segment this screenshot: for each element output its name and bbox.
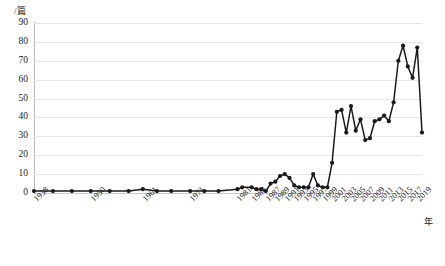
data-point [387, 119, 391, 123]
data-point [108, 189, 112, 193]
data-point [358, 117, 362, 121]
series-path [34, 46, 422, 191]
data-point [382, 113, 386, 117]
data-point [420, 130, 424, 134]
data-point [392, 100, 396, 104]
x-axis-unit-label: 年 [424, 215, 433, 228]
y-tick-40: 40 [6, 112, 28, 122]
data-point [415, 45, 419, 49]
y-tick-70: 70 [6, 56, 28, 66]
y-tick-50: 50 [6, 94, 28, 104]
data-point [330, 161, 334, 165]
data-point [70, 189, 74, 193]
data-point [377, 117, 381, 121]
y-tick-10: 10 [6, 169, 28, 179]
y-axis-unit-label: /篇 [14, 4, 26, 17]
data-point [339, 108, 343, 112]
data-point [396, 59, 400, 63]
data-point [287, 176, 291, 180]
data-point [278, 174, 282, 178]
data-point [335, 110, 339, 114]
data-series-line [34, 23, 422, 193]
y-tick-60: 60 [6, 75, 28, 85]
y-tick-90: 90 [6, 18, 28, 28]
y-tick-20: 20 [6, 150, 28, 160]
data-point [406, 64, 410, 68]
y-tick-0: 0 [6, 188, 28, 198]
data-point [363, 138, 367, 142]
data-point [349, 104, 353, 108]
y-tick-80: 80 [6, 37, 28, 47]
data-point [169, 189, 173, 193]
data-point [51, 189, 55, 193]
data-point [127, 189, 131, 193]
data-point [311, 172, 315, 176]
plot-area [34, 23, 422, 193]
data-point [354, 129, 358, 133]
data-point [368, 136, 372, 140]
data-point [373, 119, 377, 123]
data-point [410, 76, 414, 80]
data-point [401, 44, 405, 48]
data-point [344, 130, 348, 134]
line-chart: /篇 年 0102030405060708090 193819501961197… [0, 0, 445, 266]
data-point [283, 172, 287, 176]
data-point [216, 189, 220, 193]
data-point [268, 181, 272, 185]
data-point [273, 180, 277, 184]
y-tick-30: 30 [6, 131, 28, 141]
